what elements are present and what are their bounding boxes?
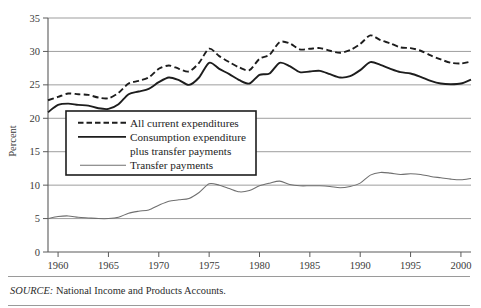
x-tick-label-1980: 1980	[249, 260, 270, 271]
source-note: SOURCE: National Income and Products Acc…	[10, 285, 226, 296]
y-tick-label-10: 10	[30, 180, 41, 191]
y-tick-label-30: 30	[30, 46, 41, 57]
y-tick-label-25: 25	[30, 79, 41, 90]
legend-label-0: All current expenditures	[130, 117, 239, 129]
x-tick-label-1965: 1965	[98, 260, 119, 271]
source-rule-top	[8, 276, 470, 277]
chart-plot-area: 0510152025303519601965197019751980198519…	[0, 0, 481, 272]
x-tick-label-2000: 2000	[450, 260, 471, 271]
series-transfer-payments	[48, 172, 471, 218]
source-keyword: SOURCE:	[10, 285, 53, 296]
x-tick-label-1970: 1970	[148, 260, 169, 271]
x-tick-label-1995: 1995	[400, 260, 421, 271]
legend-label-3: Transfer payments	[130, 159, 213, 171]
line-chart: 0510152025303519601965197019751980198519…	[0, 0, 481, 272]
x-tick-label-1985: 1985	[299, 260, 320, 271]
x-tick-label-1960: 1960	[48, 260, 69, 271]
y-tick-label-0: 0	[35, 247, 40, 258]
y-tick-label-15: 15	[30, 146, 41, 157]
series-consumption-plus-transfers	[48, 62, 471, 112]
source-note-block: SOURCE: National Income and Products Acc…	[0, 272, 481, 308]
source-body: National Income and Products Accounts.	[53, 285, 226, 296]
y-tick-label-20: 20	[30, 113, 41, 124]
x-tick-label-1975: 1975	[199, 260, 220, 271]
legend-label-1: Consumption expenditure	[130, 131, 246, 143]
source-rule-bottom	[8, 305, 470, 306]
x-tick-label-1990: 1990	[350, 260, 371, 271]
y-axis-title: Percent	[7, 125, 18, 157]
series-all-current-expenditures	[48, 35, 471, 100]
y-tick-label-5: 5	[35, 213, 40, 224]
y-tick-label-35: 35	[30, 13, 41, 24]
figure-panel: 0510152025303519601965197019751980198519…	[0, 0, 481, 308]
legend-label-2: plus transfer payments	[130, 145, 231, 157]
